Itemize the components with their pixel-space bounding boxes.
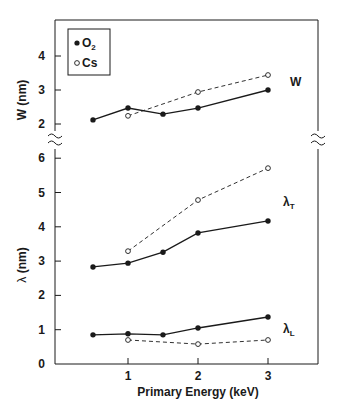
filled-circle-marker-icon [74,40,79,45]
open-circle-marker-icon [126,338,131,343]
open-circle-marker-icon [196,198,201,203]
filled-circle-marker-icon [160,249,165,254]
lambda-t-o2-series [90,218,270,269]
lambda-l-o2-series [90,314,270,337]
open-circle-marker-icon [266,73,271,78]
open-circle-marker-icon [75,61,80,66]
legend-cs-label: Cs [82,56,98,70]
filled-circle-marker-icon [195,230,200,235]
series-layer [90,73,270,347]
chart: 1232340123456 O2 Cs W λT λL W (nm) λ (nm… [0,0,339,413]
y-tick-label-lambda: 1 [38,323,45,337]
lambda-l-cs-series [126,338,271,347]
y-axis-title-lambda: λ (nm) [15,247,29,282]
series-label-w: W [290,75,302,89]
filled-circle-marker-icon [160,111,165,116]
open-circle-marker-icon [126,113,131,118]
w-o2-series [90,87,270,122]
open-circle-marker-icon [196,90,201,95]
filled-circle-marker-icon [90,117,95,122]
filled-circle-marker-icon [195,105,200,110]
x-tick-label: 2 [195,369,202,383]
open-circle-marker-icon [266,338,271,343]
series-label-lambda-t: λT [283,195,295,211]
filled-circle-marker-icon [90,264,95,269]
filled-circle-marker-icon [265,218,270,223]
y-tick-label-lambda: 6 [38,151,45,165]
filled-circle-marker-icon [125,260,130,265]
series-label-lambda-l: λL [283,322,295,338]
open-circle-marker-icon [126,249,131,254]
x-axis-title: Primary Energy (keV) [137,385,258,399]
y-tick-label-lambda: 3 [38,254,45,268]
filled-circle-marker-icon [195,325,200,330]
x-tick-label: 1 [125,369,132,383]
y-axis-title-w: W (nm) [15,80,29,121]
y-tick-label-lambda: 5 [38,186,45,200]
x-tick-label: 3 [265,369,272,383]
filled-circle-marker-icon [265,314,270,319]
legend: O2 Cs [68,29,110,75]
y-tick-label-w: 2 [38,117,45,131]
axis-break-right-icon [311,134,325,145]
chart-canvas: 1232340123456 O2 Cs W λT λL W (nm) λ (nm… [0,0,339,413]
lambda-t-cs-series [126,166,271,254]
open-circle-marker-icon [266,166,271,171]
filled-circle-marker-icon [160,332,165,337]
y-tick-label-lambda: 0 [38,357,45,371]
open-circle-marker-icon [196,342,201,347]
filled-circle-marker-icon [125,331,130,336]
y-tick-label-lambda: 4 [38,220,45,234]
y-tick-label-w: 4 [38,49,45,63]
y-tick-label-w: 3 [38,83,45,97]
filled-circle-marker-icon [265,87,270,92]
y-tick-label-lambda: 2 [38,288,45,302]
axis-ticks: 1232340123456 [38,49,271,383]
axis-break-left-icon [48,134,62,145]
filled-circle-marker-icon [125,105,130,110]
filled-circle-marker-icon [90,332,95,337]
